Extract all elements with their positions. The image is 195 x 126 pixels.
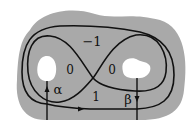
region-label-right-lobe: 0 [108,63,116,77]
alpha-label: α [54,82,63,97]
left-hole [37,56,56,81]
region-label-bottom: 1 [92,90,100,104]
beta-label: β [124,92,132,107]
surface-diagram: −1 0 0 1 α β [0,0,195,126]
region-label-top: −1 [82,34,101,49]
region-label-left-lobe: 0 [66,63,74,77]
